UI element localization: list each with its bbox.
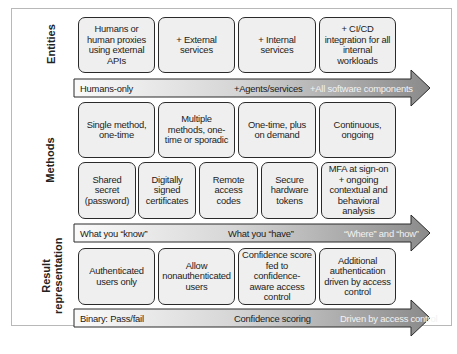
result-label: Result representation bbox=[40, 238, 64, 314]
entities-arrow-end: +All software components bbox=[310, 83, 413, 95]
entity-box-internal-services: + Internal services bbox=[238, 17, 316, 73]
result-box-confidence-score: Confidence score fed to confidence-aware… bbox=[238, 248, 316, 305]
result-arrow-labels: Binary: Pass/fail Confidence scoring Dri… bbox=[78, 309, 408, 331]
method-frequency-multiple: Multiple methods, one-time or sporadic bbox=[158, 102, 235, 158]
method-type-certificates: Digitally signed certificates bbox=[138, 162, 196, 219]
result-arrow-start: Binary: Pass/fail bbox=[80, 313, 144, 325]
entities-label: Entities bbox=[45, 14, 57, 74]
entities-arrow-start: Humans-only bbox=[80, 83, 133, 95]
methods-arrow-middle: What you “have” bbox=[228, 228, 294, 240]
method-frequency-continuous: Continuous, ongoing bbox=[319, 102, 396, 158]
entities-arrow-middle: +Agents/services bbox=[234, 83, 302, 95]
result-box-additional-auth: Additional authentication driven by acce… bbox=[319, 248, 396, 305]
result-label-line2: representation bbox=[52, 238, 64, 314]
methods-arrow-labels: What you “know” What you “have” “Where” … bbox=[78, 224, 408, 246]
method-type-remote-codes: Remote access codes bbox=[199, 162, 258, 219]
result-box-allow-nonauthenticated: Allow nonauthenticated users bbox=[158, 248, 235, 305]
entity-box-cicd: + CI/CD integration for all internal wor… bbox=[319, 17, 396, 73]
method-type-hardware-tokens: Secure hardware tokens bbox=[261, 162, 318, 219]
methods-arrow-end: “Where” and “how” bbox=[344, 228, 419, 240]
methods-arrow-start: What you “know” bbox=[80, 228, 147, 240]
method-type-mfa: MFA at sign-on + ongoing contextual and … bbox=[321, 162, 396, 219]
method-frequency-single: Single method, one-time bbox=[78, 102, 155, 158]
result-label-line1: Result bbox=[40, 238, 52, 314]
result-box-authenticated-only: Authenticated users only bbox=[78, 248, 155, 305]
methods-label: Methods bbox=[44, 130, 56, 190]
result-arrow-end: Driven by access control bbox=[340, 313, 437, 325]
entities-arrow-labels: Humans-only +Agents/services +All softwa… bbox=[78, 79, 408, 101]
result-arrow-middle: Confidence scoring bbox=[234, 313, 311, 325]
entity-box-humans: Humans or human proxies using external A… bbox=[78, 17, 155, 73]
method-frequency-on-demand: One-time, plus on demand bbox=[238, 102, 316, 158]
entity-box-external-services: + External services bbox=[158, 17, 235, 73]
method-type-shared-secret: Shared secret (password) bbox=[78, 162, 136, 219]
